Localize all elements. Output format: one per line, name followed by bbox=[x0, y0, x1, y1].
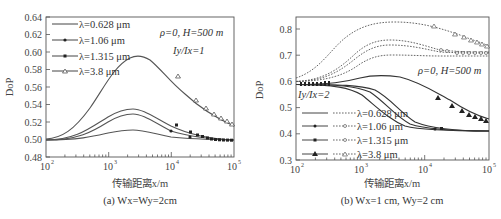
svg-text:4: 4 bbox=[176, 159, 179, 165]
curve-a-1315 bbox=[46, 109, 234, 140]
svg-text:λ=3.8 μm: λ=3.8 μm bbox=[357, 149, 398, 160]
svg-text:0.4: 0.4 bbox=[280, 128, 293, 139]
svg-text:λ=0.628 μm: λ=0.628 μm bbox=[79, 19, 130, 30]
x-axis-label-a: 传输距离x/m bbox=[112, 177, 168, 189]
svg-text:0.8: 0.8 bbox=[280, 24, 293, 35]
svg-text:5: 5 bbox=[238, 159, 241, 165]
chart-a: 0.64 0.62 0.60 0.58 0.56 0.54 0.52 0.50 … bbox=[4, 12, 241, 208]
curve-a-38 bbox=[46, 56, 234, 139]
svg-text:3: 3 bbox=[114, 159, 117, 165]
svg-text:10: 10 bbox=[227, 161, 237, 172]
svg-text:10: 10 bbox=[418, 164, 428, 175]
svg-text:0.58: 0.58 bbox=[25, 64, 43, 75]
svg-text:5: 5 bbox=[493, 162, 496, 168]
svg-text:0.54: 0.54 bbox=[25, 99, 43, 110]
svg-text:10: 10 bbox=[354, 164, 364, 175]
x-tick-labels-b: 10 2 10 3 10 4 10 5 bbox=[290, 162, 496, 175]
svg-text:10: 10 bbox=[40, 161, 50, 172]
y-axis-label-b: DoP bbox=[254, 81, 265, 100]
svg-text:10: 10 bbox=[290, 164, 300, 175]
legend-b: λ=0.628 μm λ=1.06 μm λ=1.315 μm λ=3.8 μm bbox=[302, 108, 408, 160]
svg-text:λ=1.315 μm: λ=1.315 μm bbox=[79, 51, 130, 62]
svg-text:2: 2 bbox=[51, 159, 54, 165]
svg-text:0.5: 0.5 bbox=[280, 102, 293, 113]
svg-text:0.52: 0.52 bbox=[25, 117, 43, 128]
svg-text:2: 2 bbox=[301, 162, 304, 168]
annotation-intensity-b: Iy/Ix=2 bbox=[297, 89, 330, 100]
svg-text:0.7: 0.7 bbox=[280, 50, 293, 61]
svg-text:λ=3.8 μm: λ=3.8 μm bbox=[79, 66, 120, 77]
svg-text:10: 10 bbox=[103, 161, 113, 172]
svg-text:λ=1.06 μm: λ=1.06 μm bbox=[357, 121, 403, 132]
svg-text:0.50: 0.50 bbox=[25, 134, 43, 145]
y-tick-labels-b: 0.8 0.7 0.6 0.5 0.4 0.3 bbox=[280, 24, 293, 166]
svg-text:0.64: 0.64 bbox=[25, 12, 43, 23]
legend-a: λ=0.628 μm λ=1.06 μm λ=1.315 μm λ=3.8 μm bbox=[52, 19, 130, 77]
svg-text:λ=1.06 μm: λ=1.06 μm bbox=[79, 35, 125, 46]
figure: 0.64 0.62 0.60 0.58 0.56 0.54 0.52 0.50 … bbox=[0, 0, 501, 219]
svg-text:0.6: 0.6 bbox=[280, 76, 293, 87]
svg-text:0.62: 0.62 bbox=[25, 29, 43, 40]
curves-a bbox=[46, 56, 234, 140]
y-axis-label-a: DoP bbox=[4, 78, 15, 97]
chart-b: 0.8 0.7 0.6 0.5 0.4 0.3 10 2 10 3 10 4 1… bbox=[254, 17, 496, 207]
svg-text:λ=1.315 μm: λ=1.315 μm bbox=[357, 135, 408, 146]
y-tick-labels-a: 0.64 0.62 0.60 0.58 0.56 0.54 0.52 0.50 … bbox=[25, 12, 43, 163]
svg-text:4: 4 bbox=[429, 162, 432, 168]
annotation-rho-a: ρ=0, H=500 m bbox=[159, 27, 224, 38]
svg-text:0.60: 0.60 bbox=[25, 47, 43, 58]
caption-a: (a) Wx=Wy=2cm bbox=[103, 195, 177, 207]
svg-text:0.56: 0.56 bbox=[25, 82, 43, 93]
x-axis-label-b: 传输距离x/m bbox=[364, 177, 420, 189]
svg-text:3: 3 bbox=[365, 162, 368, 168]
svg-text:10: 10 bbox=[165, 161, 175, 172]
annotation-intensity-a: Iy/Ix=1 bbox=[172, 45, 205, 56]
caption-b: (b) Wx=1 cm, Wy=2 cm bbox=[341, 195, 444, 207]
x-tick-labels-a: 10 2 10 3 10 4 10 5 bbox=[40, 159, 241, 172]
solid-markers-b bbox=[434, 95, 490, 131]
svg-text:10: 10 bbox=[482, 164, 492, 175]
annotation-rho-b: ρ=0, H=500 m bbox=[417, 65, 482, 76]
svg-text:λ=0.628 μm: λ=0.628 μm bbox=[357, 108, 408, 119]
open-triangles-a bbox=[176, 74, 235, 126]
